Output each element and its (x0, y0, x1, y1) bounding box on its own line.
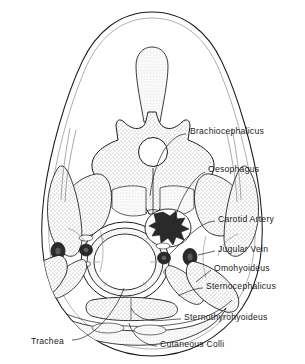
figure-page: Brachiocephalicus Oesophagus Carotid Art… (0, 0, 305, 364)
oesophagus (145, 209, 191, 247)
anatomy-diagram (0, 0, 305, 364)
trachea-lumen (94, 234, 156, 290)
